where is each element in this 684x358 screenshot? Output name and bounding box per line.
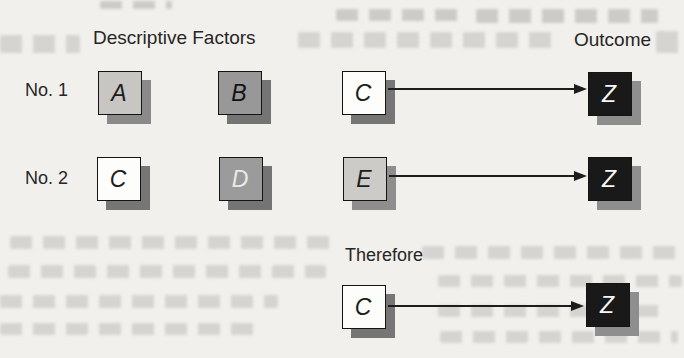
bleed-through-smudge (422, 246, 680, 259)
bleed-through-smudge (10, 236, 335, 249)
therefore-label: Therefore (345, 245, 423, 266)
factor-box-b-row-1: B (218, 71, 262, 115)
factor-box-e-row-2: E (343, 157, 387, 201)
factor-box-d-row-2: D (219, 157, 263, 201)
bleed-through-smudge (336, 9, 468, 21)
factor-box-c-row-2: C (97, 157, 141, 201)
outcome-letter-z: Z (602, 83, 616, 106)
row-1-label: No. 1 (25, 80, 68, 101)
outcome-letter-z: Z (602, 168, 616, 191)
row-2-label: No. 2 (25, 168, 68, 189)
outcome-box-z-row-1: Z (588, 72, 632, 116)
outcome-box-z-row-2: Z (588, 157, 632, 201)
arrow-head-icon (574, 171, 587, 181)
outcome-box-z-conclusion: Z (586, 283, 630, 327)
outcome-letter-z: Z (600, 294, 614, 317)
bleed-through-smudge (100, 1, 172, 9)
arrow-line (389, 175, 576, 177)
factor-box-c-conclusion: C (342, 285, 386, 329)
factor-letter-c: C (355, 296, 372, 319)
causal-arrow-row-2 (389, 171, 587, 181)
arrow-head-icon (571, 301, 584, 311)
outcome-heading: Outcome (574, 29, 651, 51)
factor-box-a-row-1: A (98, 71, 142, 115)
causal-arrow-row-1 (388, 84, 587, 94)
bleed-through-smudge (0, 295, 278, 308)
bleed-through-smudge (8, 265, 326, 278)
bleed-through-smudge (476, 9, 658, 23)
causal-arrow-conclusion (388, 301, 584, 311)
figure-canvas: Descriptive Factors Outcome No. 1 A B C … (0, 0, 684, 358)
bleed-through-smudge (0, 35, 80, 53)
arrow-line (388, 305, 573, 307)
arrow-line (388, 88, 576, 90)
bleed-through-smudge (438, 275, 682, 287)
bleed-through-smudge (0, 323, 258, 335)
bleed-through-smudge (298, 32, 554, 48)
factor-box-c-row-1: C (342, 71, 386, 115)
factor-letter-b: B (231, 82, 246, 105)
factor-letter-d: D (232, 168, 249, 191)
factor-letter-c: C (110, 168, 127, 191)
bleed-through-smudge (440, 331, 678, 343)
bleed-through-smudge (656, 31, 684, 53)
descriptive-factors-heading: Descriptive Factors (93, 27, 256, 49)
factor-letter-c: C (355, 82, 372, 105)
factor-letter-e: E (356, 168, 371, 191)
arrow-head-icon (574, 84, 587, 94)
factor-letter-a: A (111, 82, 126, 105)
